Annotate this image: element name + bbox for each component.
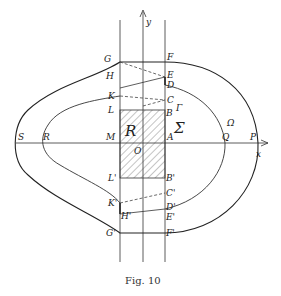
- label-K: K: [107, 91, 116, 101]
- label-D-prime: D': [165, 202, 176, 212]
- dashed-K-prime-C-prime: [120, 193, 165, 203]
- label-R-region: R: [124, 122, 136, 140]
- label-P: P: [249, 132, 257, 142]
- label-L: L: [107, 105, 114, 115]
- label-L-prime: L': [107, 173, 116, 183]
- segment-K-E: [120, 77, 165, 88]
- label-G-prime: G': [106, 228, 116, 238]
- label-E: E: [166, 70, 174, 80]
- label-C: C: [167, 95, 174, 105]
- figure-10-diagram: G F H E D K C L B M A L' B' C' K' D' H' …: [0, 0, 281, 296]
- label-M: M: [105, 132, 116, 142]
- dashed-K-C: [120, 96, 165, 100]
- label-y-axis: y: [145, 17, 152, 27]
- label-S: S: [18, 132, 24, 142]
- label-A: A: [166, 132, 174, 142]
- label-R-point: R: [42, 132, 50, 142]
- label-gamma: Γ: [175, 103, 183, 113]
- label-F: F: [166, 52, 174, 62]
- dashed-G-E: [120, 62, 165, 77]
- label-H-prime: H': [120, 211, 131, 221]
- label-F-prime: F': [165, 228, 175, 238]
- label-G: G: [104, 54, 111, 64]
- dashed-L-C: [143, 100, 165, 106]
- label-K-prime: K': [107, 198, 117, 208]
- label-Q: Q: [222, 132, 230, 142]
- label-x-axis: x: [256, 149, 261, 159]
- label-D: D: [166, 80, 174, 90]
- label-omega: Ω: [226, 118, 235, 128]
- label-origin: O: [134, 146, 142, 156]
- label-B-prime: B': [165, 173, 175, 183]
- label-E-prime: E': [165, 212, 175, 222]
- rectangle-R: [120, 110, 165, 178]
- figure-caption: Fig. 10: [125, 275, 161, 286]
- label-C-prime: C': [166, 188, 175, 198]
- label-B: B: [165, 108, 173, 118]
- label-sigma: Σ: [173, 119, 185, 137]
- label-H: H: [105, 71, 114, 81]
